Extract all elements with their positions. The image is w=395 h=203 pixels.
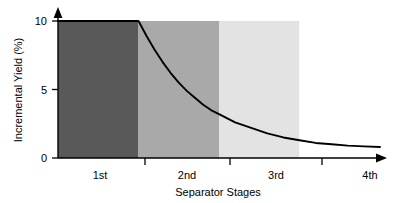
chart-figure: 10 5 0 Incremental Yield (%) 1st 2nd 3rd…: [0, 0, 395, 203]
stage-bands: [58, 21, 380, 158]
x-tick-label-4th: 4th: [362, 169, 377, 181]
y-tick-label-5: 5: [41, 84, 47, 96]
y-tick-label-0: 0: [41, 152, 47, 164]
x-tick-label-2nd: 2nd: [178, 169, 196, 181]
x-axis-title: Separator Stages: [175, 186, 261, 198]
x-tick-label-1st: 1st: [93, 169, 108, 181]
incremental-yield-chart: 10 5 0 Incremental Yield (%) 1st 2nd 3rd…: [0, 0, 395, 203]
x-tick-label-3rd: 3rd: [268, 169, 284, 181]
stage-band-4th: [300, 21, 381, 158]
stage-band-1st: [58, 21, 139, 158]
y-axis-title: Incremental Yield (%): [12, 38, 24, 143]
y-tick-label-10: 10: [35, 15, 47, 27]
